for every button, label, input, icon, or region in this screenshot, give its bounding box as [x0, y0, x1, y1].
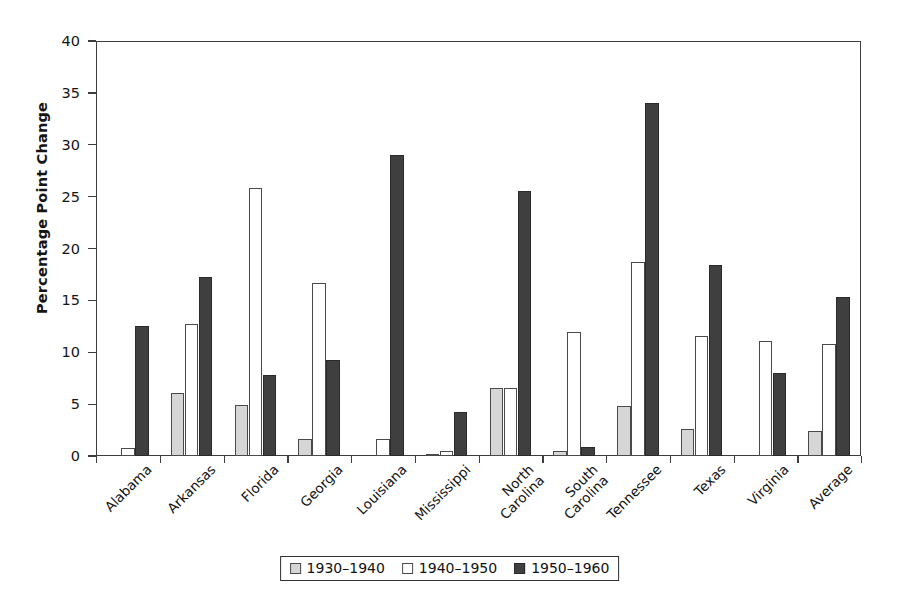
legend-label: 1940–1950: [419, 560, 497, 576]
bar: [390, 155, 404, 456]
legend-item: 1930–1940: [290, 560, 385, 576]
chart-legend: 1930–19401940–19501950–1960: [280, 556, 620, 581]
bar-series-layer: [96, 41, 861, 456]
legend-swatch-icon: [514, 563, 525, 574]
bar: [298, 439, 312, 456]
x-tick-mark: [670, 456, 671, 463]
y-tick-label: 35: [40, 85, 80, 101]
bar: [171, 393, 185, 456]
bar: [759, 341, 773, 456]
bar: [249, 188, 263, 456]
y-tick-mark: [88, 196, 96, 197]
x-axis-label: Alabama: [0, 462, 154, 599]
y-tick-mark: [88, 352, 96, 353]
y-tick-label: 0: [40, 448, 80, 464]
bar: [440, 451, 454, 456]
bar: [135, 326, 149, 456]
bar: [121, 448, 135, 456]
y-tick-label: 20: [40, 241, 80, 257]
bar: [645, 103, 659, 456]
x-tick-mark: [160, 456, 161, 463]
y-tick-label: 25: [40, 189, 80, 205]
y-tick-mark: [88, 455, 96, 456]
legend-swatch-icon: [290, 563, 301, 574]
x-tick-mark: [287, 456, 288, 463]
y-tick-mark: [88, 404, 96, 405]
bar: [263, 375, 277, 456]
x-tick-mark: [415, 456, 416, 463]
y-tick-label: 40: [40, 33, 80, 49]
bar: [185, 324, 199, 456]
x-tick-mark: [351, 456, 352, 463]
y-tick-label: 10: [40, 344, 80, 360]
y-tick-mark: [88, 248, 96, 249]
bar: [312, 283, 326, 456]
bar: [518, 191, 532, 456]
y-tick-mark: [88, 92, 96, 93]
bar: [426, 454, 440, 456]
x-tick-mark: [479, 456, 480, 463]
bar: [709, 265, 723, 456]
x-tick-mark: [861, 456, 862, 463]
bar: [490, 388, 504, 456]
legend-item: 1940–1950: [402, 560, 497, 576]
bar: [504, 388, 518, 456]
bar: [454, 412, 468, 456]
bar: [326, 360, 340, 456]
x-tick-mark: [734, 456, 735, 463]
bar: [808, 431, 822, 456]
legend-label: 1950–1960: [531, 560, 609, 576]
bar: [836, 297, 850, 456]
bar: [235, 405, 249, 456]
bar: [553, 451, 567, 456]
bar: [631, 262, 645, 456]
x-tick-mark: [542, 456, 543, 463]
x-tick-mark: [606, 456, 607, 463]
legend-label: 1930–1940: [307, 560, 385, 576]
bar: [376, 439, 390, 456]
bar: [617, 406, 631, 456]
y-tick-mark: [88, 300, 96, 301]
legend-item: 1950–1960: [514, 560, 609, 576]
x-tick-mark: [224, 456, 225, 463]
bar: [773, 373, 787, 456]
bar: [581, 447, 595, 456]
y-tick-mark: [88, 144, 96, 145]
bar: [681, 429, 695, 456]
legend-swatch-icon: [402, 563, 413, 574]
y-tick-mark: [88, 40, 96, 41]
bar: [199, 277, 213, 456]
y-tick-label: 15: [40, 292, 80, 308]
y-axis-title: Percentage Point Change: [34, 58, 50, 358]
y-tick-label: 5: [40, 396, 80, 412]
x-tick-mark: [96, 456, 97, 463]
y-tick-label: 30: [40, 137, 80, 153]
bar: [822, 344, 836, 456]
bar: [567, 332, 581, 457]
bar-chart: Percentage Point Change 0510152025303540…: [0, 0, 899, 599]
x-tick-mark: [797, 456, 798, 463]
bar: [695, 336, 709, 456]
